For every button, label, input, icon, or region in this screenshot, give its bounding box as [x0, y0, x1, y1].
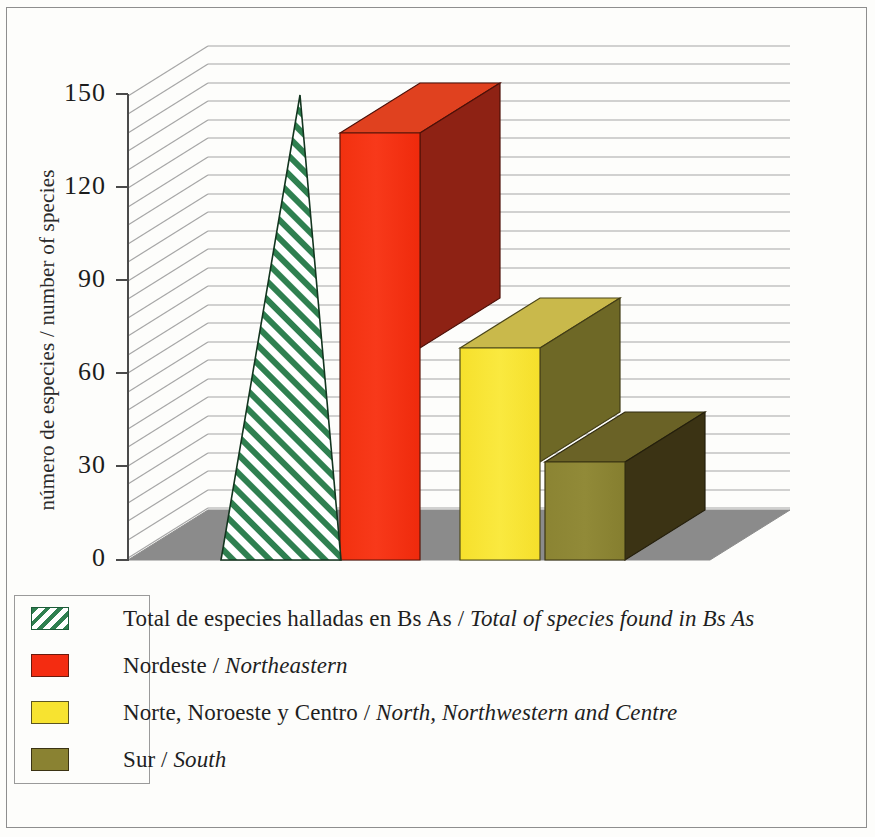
chart-svg — [0, 0, 875, 590]
chart-page: 150 120 90 60 30 0 número de especies / … — [0, 0, 875, 837]
bar-sur-face — [545, 462, 625, 560]
legend-item-total-especies[interactable]: Total de especies halladas en Bs As / To… — [14, 595, 859, 642]
legend-swatch-yellow-icon — [31, 701, 69, 724]
y-axis-ticks — [116, 94, 128, 560]
chart-plot-area: 150 120 90 60 30 0 número de especies / … — [0, 0, 875, 590]
y-tick-150: 150 — [36, 78, 106, 108]
bar-norte-face — [460, 348, 540, 560]
bar-nordeste-face — [340, 133, 420, 560]
bar-total-cone-face — [221, 95, 341, 560]
gridlines-side-wall — [128, 46, 208, 558]
bar-total-especies[interactable] — [221, 95, 341, 560]
legend: Total de especies halladas en Bs As / To… — [14, 595, 859, 785]
legend-swatch-hatch-green-icon — [31, 607, 69, 630]
legend-item-sur[interactable]: Sur / South — [14, 736, 859, 783]
legend-swatch-red-icon — [31, 654, 69, 677]
legend-item-nordeste[interactable]: Nordeste / Northeastern — [14, 642, 859, 689]
legend-label-total-especies: Total de especies halladas en Bs As / To… — [123, 606, 754, 632]
legend-item-norte-noroeste-centro[interactable]: Norte, Noroeste y Centro / North, Northw… — [14, 689, 859, 736]
legend-label-norte-noroeste-centro: Norte, Noroeste y Centro / North, Northw… — [123, 700, 677, 726]
y-axis-label: número de especies / number of species — [30, 105, 64, 575]
legend-label-nordeste: Nordeste / Northeastern — [123, 653, 348, 679]
legend-label-sur: Sur / South — [123, 747, 226, 773]
legend-swatch-olive-icon — [31, 748, 69, 771]
